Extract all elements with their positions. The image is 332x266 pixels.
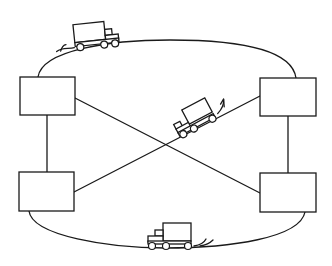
truck-middle-icon	[169, 90, 230, 139]
node-bottom-right	[260, 173, 316, 212]
edge-diagonal-2	[74, 96, 260, 192]
diagram-svg	[0, 0, 332, 266]
network-diagram	[0, 0, 332, 266]
edge-diagonal-1	[75, 98, 260, 193]
node-top-left	[20, 77, 75, 115]
truck-bottom-icon	[148, 223, 213, 250]
node-top-right	[260, 78, 316, 116]
node-bottom-left	[19, 172, 74, 211]
